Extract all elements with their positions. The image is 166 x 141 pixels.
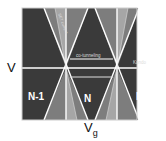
region-n: N xyxy=(84,93,91,104)
region-n-minus-1: N-1 xyxy=(28,91,44,102)
coulomb-diamond-plot: SET current co-tunneling Kondo xyxy=(0,0,166,141)
center-text: co-tunneling xyxy=(76,53,101,58)
region-n-plus-1: N+1 xyxy=(136,91,155,102)
x-axis-label: Vg xyxy=(84,120,98,138)
right-text: Kondo xyxy=(133,60,147,65)
y-axis-label: V xyxy=(7,60,16,75)
